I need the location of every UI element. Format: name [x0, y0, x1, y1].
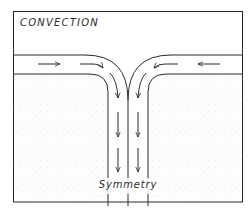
convection-diagram: CONVECTION Symmetry: [0, 0, 252, 218]
symmetry-label: Symmetry: [96, 179, 160, 190]
left-stippled-block: [14, 74, 108, 202]
arrow-curve-right-icon: [80, 64, 103, 68]
diagram-title: CONVECTION: [20, 17, 99, 28]
right-stippled-block: [148, 74, 242, 202]
arrow-curve-left-icon: [154, 64, 178, 68]
arrow-curve-down-right-icon: [138, 73, 146, 98]
arrow-curve-down-left-icon: [110, 73, 118, 98]
